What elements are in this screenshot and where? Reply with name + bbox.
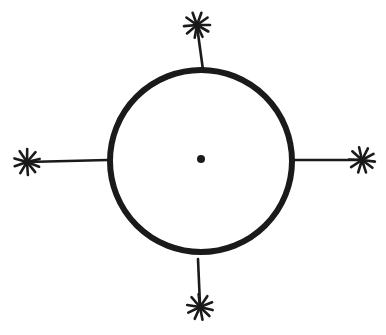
star-right-icon xyxy=(349,147,375,172)
star-bottom-icon xyxy=(187,294,212,320)
center-dot xyxy=(197,155,205,163)
star-glyphs xyxy=(15,13,375,320)
diagram-canvas xyxy=(0,0,386,335)
circle-with-stars-diagram xyxy=(0,0,386,335)
